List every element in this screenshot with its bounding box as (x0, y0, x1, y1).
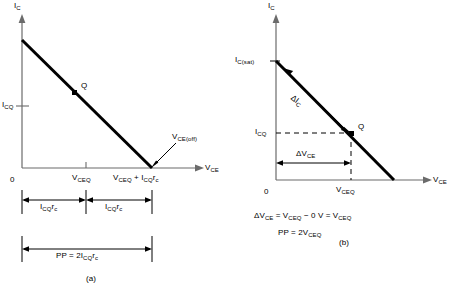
vce-off-leader-arrow-a (151, 160, 158, 168)
caption-b: (b) (339, 239, 349, 247)
x-intercept-label-a: VCEQ + ICQrc (113, 174, 159, 182)
x-axis-arrow-a (195, 165, 204, 172)
y-axis-label-b: IC (268, 2, 275, 10)
pp-label-a: PP = 2ICQrc (56, 252, 98, 260)
q-point-marker-a (72, 90, 77, 95)
bracket-left-label-a: ICQrc (40, 203, 57, 211)
vce-off-leader-a (155, 143, 176, 164)
x-axis-label-a: VCE (205, 164, 219, 172)
x-axis-label-b: VCE (433, 176, 447, 184)
icq-label-b: ICQ (255, 128, 267, 136)
bracket1-right-arrow-start (86, 197, 93, 203)
q-point-label-b: Q (358, 123, 364, 131)
figure-panel-a: IC VCE 0 ICQ Q VCEQ VCE(off) VCEQ + ICQr… (0, 0, 234, 293)
ic-sat-label-b: IC(sat) (235, 56, 254, 64)
panel-b-graphics (234, 0, 468, 293)
origin-label-b: 0 (264, 188, 269, 196)
y-axis-label-a: IC (14, 2, 21, 10)
delta-vce-arrow-end-b (344, 160, 351, 166)
vceq-label-b: VCEQ (336, 186, 355, 194)
delta-vce-label-b: ΔVCE (296, 150, 315, 158)
panel-a-graphics (0, 0, 234, 293)
y-axis-arrow-a (19, 14, 26, 23)
x-axis-arrow-b (423, 177, 432, 184)
load-line-a (22, 40, 152, 168)
bracket-right-label-a: ICQrc (105, 203, 122, 211)
vceq-label-a: VCEQ (72, 174, 91, 182)
bracket2-arrow-end (145, 246, 152, 252)
q-point-label-a: Q (81, 82, 87, 90)
bracket2-arrow-start (22, 246, 29, 252)
caption-a: (a) (86, 275, 96, 283)
equation-pp: PP = 2VCEQ (278, 229, 321, 237)
bracket1-right-arrow-end (145, 197, 152, 203)
figure-panel-b: IC VCE 0 IC(sat) ICQ Q ΔIC ΔVCE VCEQ ΔVC… (234, 0, 468, 293)
origin-label-a: 0 (10, 176, 15, 184)
bracket1-left-arrow-end (79, 197, 86, 203)
y-axis-arrow-b (273, 14, 280, 23)
icq-label-a: ICQ (2, 101, 14, 109)
equation-delta-vce: ΔVCE = VCEQ − 0 V = VCEQ (254, 212, 352, 220)
delta-vce-arrow-start-b (276, 160, 283, 166)
bracket1-left-arrow-start (22, 197, 29, 203)
vce-off-label-a: VCE(off) (172, 133, 197, 141)
